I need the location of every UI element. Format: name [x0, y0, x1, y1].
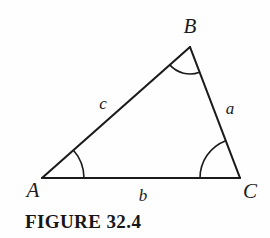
figure-caption: FIGURE 32.4: [25, 211, 141, 233]
triangle-side-c: [42, 47, 190, 178]
vertex-label-a: A: [27, 180, 40, 201]
angle-arc-c: [200, 141, 226, 178]
side-label-b: b: [139, 187, 148, 204]
vertex-label-b: B: [184, 16, 197, 37]
figure-container: A B C a b c FIGURE 32.4: [0, 0, 270, 238]
side-label-c: c: [99, 95, 107, 112]
vertex-label-c: C: [243, 181, 257, 202]
triangle-diagram: [0, 0, 270, 238]
angle-arc-a: [73, 150, 84, 178]
angle-arc-b: [170, 65, 200, 74]
side-label-a: a: [226, 100, 235, 117]
